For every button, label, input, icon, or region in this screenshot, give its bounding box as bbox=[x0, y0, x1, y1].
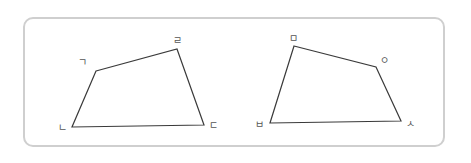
vertex-label: ㅇ bbox=[380, 55, 389, 66]
vertex-label: ㄹ bbox=[173, 35, 182, 46]
vertex-label: ㅅ bbox=[406, 118, 415, 129]
vertex-label: ㄱ bbox=[78, 57, 87, 68]
vertex-label: ㄴ bbox=[58, 122, 67, 133]
quadrilateral-1-outline bbox=[72, 49, 204, 127]
vertex-label: ㄷ bbox=[209, 120, 218, 131]
quadrilateral-1: ㄱㄹㄷㄴ bbox=[58, 35, 218, 133]
quadrilateral-2: ㅁㅇㅅㅂ bbox=[255, 33, 415, 130]
quadrilaterals-diagram: ㄱㄹㄷㄴㅁㅇㅅㅂ bbox=[0, 0, 471, 163]
vertex-label: ㅁ bbox=[289, 33, 298, 44]
vertex-label: ㅂ bbox=[255, 119, 264, 130]
